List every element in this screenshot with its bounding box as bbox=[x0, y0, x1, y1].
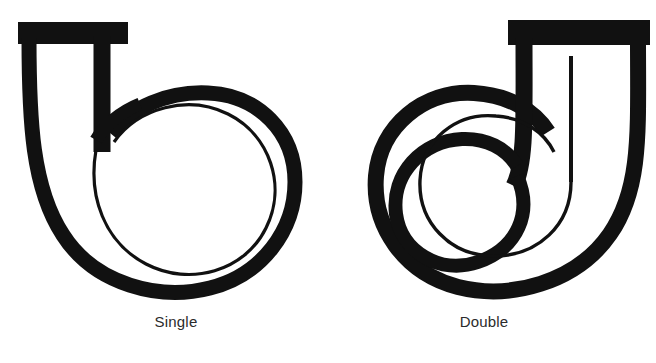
figure-caption-double: Double bbox=[320, 312, 648, 332]
double-coil-icon bbox=[328, 0, 656, 363]
figure-caption-single: Single bbox=[12, 312, 340, 332]
single-coil-icon bbox=[0, 0, 328, 363]
figure-panel-double: Double bbox=[328, 0, 656, 363]
figure-sheet: Single Double bbox=[0, 0, 656, 363]
single-outer-tube-wall bbox=[29, 38, 295, 292]
figure-panel-single: Single bbox=[0, 0, 328, 363]
